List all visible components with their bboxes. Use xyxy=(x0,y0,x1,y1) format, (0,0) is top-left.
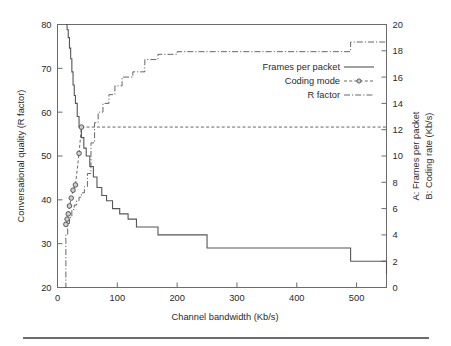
data-point-marker xyxy=(69,196,74,201)
legend: Frames per packet Coding mode R factor xyxy=(262,62,374,100)
x-axis-ticks: 0100200300400500 xyxy=(55,283,364,303)
y-left-tick-label: 40 xyxy=(41,195,51,205)
data-point-marker xyxy=(64,222,69,227)
x-axis-label: Channel bandwidth (Kb/s) xyxy=(172,312,279,322)
y-right-tick-label: 10 xyxy=(393,151,403,161)
data-point-marker xyxy=(73,183,78,188)
y-right-tick-label: 12 xyxy=(393,125,403,135)
chart-svg: 0100200300400500 20304050607080 02468101… xyxy=(0,0,451,346)
x-tick-label: 300 xyxy=(229,293,245,303)
legend-label-frames-per-packet: Frames per packet xyxy=(262,62,340,72)
y-right-tick-label: 16 xyxy=(393,73,403,83)
y-left-tick-label: 70 xyxy=(41,64,51,74)
y-axis-left-ticks: 20304050607080 xyxy=(41,20,62,293)
y-right-tick-label: 6 xyxy=(393,204,398,214)
legend-marker-coding-mode xyxy=(357,79,361,83)
y-axis-right-label-b: B: Coding rate (Kb/s) xyxy=(424,113,434,200)
y-right-tick-label: 8 xyxy=(393,178,398,188)
y-right-tick-label: 4 xyxy=(393,230,398,240)
x-tick-label: 500 xyxy=(349,293,365,303)
x-tick-label: 100 xyxy=(110,293,126,303)
y-left-tick-label: 20 xyxy=(41,283,51,293)
data-point-marker xyxy=(67,204,72,209)
data-point-marker xyxy=(71,188,76,193)
series-coding-mode-line xyxy=(66,127,387,224)
y-right-tick-label: 20 xyxy=(393,20,403,30)
y-left-tick-label: 60 xyxy=(41,108,51,118)
data-point-marker xyxy=(66,212,71,217)
figure-container: 0100200300400500 20304050607080 02468101… xyxy=(0,0,451,346)
y-axis-right-label-a: A: Frames per packet xyxy=(411,111,421,200)
y-axis-left-label: Conversational quality (R factor) xyxy=(16,90,26,223)
data-point-marker xyxy=(77,151,82,156)
y-right-tick-label: 14 xyxy=(393,99,403,109)
x-tick-label: 200 xyxy=(169,293,185,303)
y-right-tick-label: 0 xyxy=(393,283,398,293)
series-coding-mode-markers xyxy=(64,125,84,227)
y-axis-right-ticks: 02468101214161820 xyxy=(382,20,403,293)
x-tick-label: 400 xyxy=(289,293,305,303)
y-right-tick-label: 18 xyxy=(393,46,403,56)
y-left-tick-label: 30 xyxy=(41,239,51,249)
legend-label-r-factor: R factor xyxy=(307,90,340,100)
y-left-tick-label: 50 xyxy=(41,151,51,161)
y-left-tick-label: 80 xyxy=(41,20,51,30)
data-point-marker xyxy=(65,217,70,222)
data-point-marker xyxy=(79,125,84,130)
y-right-tick-label: 2 xyxy=(393,257,398,267)
legend-label-coding-mode: Coding mode xyxy=(285,76,340,86)
x-tick-label: 0 xyxy=(55,293,60,303)
